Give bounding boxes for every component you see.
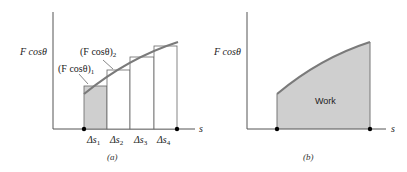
caption-a: (a) — [107, 152, 118, 162]
interval-3-text: Δs — [134, 134, 144, 145]
end-point-b — [368, 127, 372, 131]
x-axis-label-b: s — [391, 124, 395, 134]
start-point-a — [82, 127, 86, 131]
interval-1-text: Δs — [87, 134, 97, 145]
diagram-b — [247, 12, 386, 131]
interval-1-sub: 1 — [97, 139, 101, 147]
bar-2 — [107, 70, 130, 129]
start-point-b — [275, 127, 279, 131]
bar-3 — [130, 57, 154, 129]
interval-label-1: Δs1 — [87, 135, 100, 147]
x-axis-label-b-text: s — [391, 123, 395, 134]
bar1-label-text: (F cosθ) — [58, 63, 91, 74]
bar1-label-sub: 1 — [91, 68, 95, 76]
interval-2-sub: 2 — [120, 139, 124, 147]
x-axis-label-a: s — [199, 124, 203, 134]
y-axis-label-b-text: F cosθ — [214, 46, 241, 57]
interval-4-text: Δs — [157, 134, 167, 145]
x-axis-label-a-text: s — [199, 123, 203, 134]
bar2-label: (F cosθ)2 — [80, 47, 116, 59]
end-point-a — [175, 127, 179, 131]
y-axis-label-a: F cosθ — [20, 47, 47, 57]
interval-label-4: Δs4 — [157, 135, 170, 147]
y-axis-label-a-text: F cosθ — [20, 46, 47, 57]
work-area — [277, 42, 370, 129]
bar2-label-sub: 2 — [113, 51, 117, 59]
y-axis-label-b: F cosθ — [214, 47, 241, 57]
diagram-canvas — [0, 0, 407, 172]
interval-4-sub: 4 — [167, 139, 171, 147]
caption-b: (b) — [303, 152, 314, 162]
bar2-label-text: (F cosθ) — [80, 46, 113, 57]
bar1-label: (F cosθ)1 — [58, 64, 94, 76]
interval-2-text: Δs — [110, 134, 120, 145]
interval-label-3: Δs3 — [134, 135, 147, 147]
interval-3-sub: 3 — [144, 139, 148, 147]
leader-line-2 — [103, 60, 113, 69]
work-area-label: Work — [315, 96, 336, 106]
interval-label-2: Δs2 — [110, 135, 123, 147]
bar-4 — [154, 46, 177, 129]
